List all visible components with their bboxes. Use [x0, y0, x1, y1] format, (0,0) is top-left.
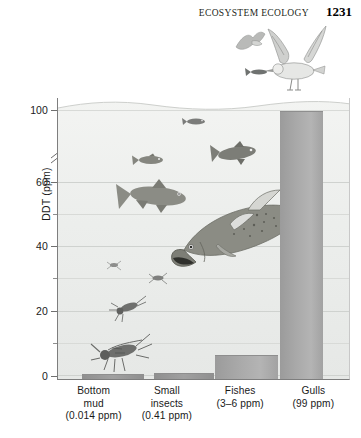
aquatic-insect-larva-icon	[107, 294, 147, 324]
aquatic-insect-larva-icon	[86, 326, 154, 374]
y-tick-label-40: 40	[14, 240, 48, 252]
fish-icon	[210, 140, 264, 166]
bar-fishes	[215, 355, 278, 379]
y-tick-label-60: 60	[14, 176, 48, 188]
x-label-value: (0.014 ppm)	[57, 410, 130, 423]
figure-canvas: ECOSYSTEM ECOLOGY 1231	[0, 0, 361, 438]
y-tick-label-0: 0	[14, 370, 48, 382]
x-label-small-insects: Small insects (0.41 ppm)	[130, 385, 203, 435]
fish-icon	[245, 68, 267, 76]
plot-area	[57, 98, 350, 380]
x-label-gulls: Gulls (99 ppm)	[277, 385, 350, 435]
bar-small-insects	[154, 373, 214, 379]
x-label-bottom-mud: Bottom mud (0.014 ppm)	[57, 385, 130, 435]
fish-icon	[182, 116, 208, 127]
x-label-line2: mud	[57, 398, 130, 411]
x-label-line1: Bottom	[57, 385, 130, 398]
x-label-line2: insects	[130, 398, 203, 411]
x-label-line1: Small	[130, 385, 203, 398]
gulls-illustration	[228, 14, 354, 104]
x-label-line1: Gulls	[277, 385, 350, 398]
gull-icon	[236, 32, 265, 49]
x-label-value: (99 ppm)	[277, 398, 350, 411]
bar-gulls	[280, 111, 323, 379]
y-tick-label-100: 100	[14, 104, 48, 116]
x-label-value: (0.41 ppm)	[130, 410, 203, 423]
fish-icon	[132, 153, 166, 167]
x-label-line1: Fishes	[204, 385, 277, 398]
aquatic-insect-larva-icon	[106, 258, 122, 272]
bar-bottom-mud	[82, 374, 144, 379]
x-label-fishes: Fishes (3–6 ppm)	[204, 385, 277, 435]
x-label-value: (3–6 ppm)	[204, 398, 277, 411]
x-axis-labels: Bottom mud (0.014 ppm) Small insects (0.…	[57, 385, 350, 435]
y-tick-label-20: 20	[14, 305, 48, 317]
